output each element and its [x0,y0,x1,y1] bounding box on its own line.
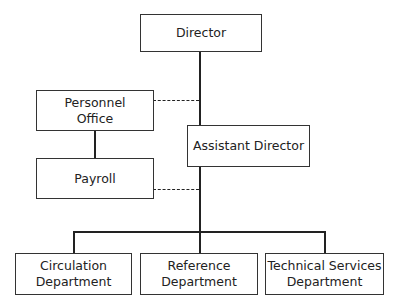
reference-department-box: Reference Department [140,253,258,295]
personnel-dashed-link [153,100,199,101]
personnel-label-line1: Personnel [64,95,125,111]
payroll-dashed-link [153,189,199,190]
reference-drop [199,231,201,253]
personnel-to-payroll-line [94,130,96,158]
technical-drop [324,231,326,253]
assistant-director-label: Assistant Director [193,138,304,154]
technical-label-line2: Department [287,274,363,290]
assistant-director-box: Assistant Director [187,125,310,167]
technical-label-line1: Technical Services [267,258,381,274]
reference-label-line1: Reference [168,258,231,274]
payroll-box: Payroll [36,158,154,199]
circulation-department-box: Circulation Department [15,253,132,295]
personnel-label-line2: Office [77,111,114,127]
director-box: Director [140,14,262,52]
payroll-label: Payroll [74,171,116,187]
director-label: Director [176,25,226,41]
assistant-to-departments-line [199,166,201,232]
circulation-label-line1: Circulation [40,258,107,274]
circulation-drop [73,231,75,253]
reference-label-line2: Department [161,274,237,290]
personnel-office-box: Personnel Office [36,90,154,131]
circulation-label-line2: Department [36,274,112,290]
technical-services-department-box: Technical Services Department [265,253,384,295]
director-to-assistant-line [199,51,201,125]
